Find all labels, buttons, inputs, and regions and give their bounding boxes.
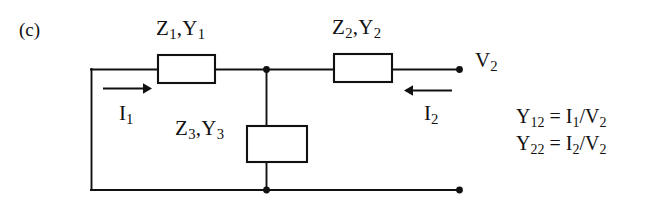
series-1-impedance-subscript: 1 — [169, 26, 177, 42]
equation-y22-lhs-symbol: Y — [516, 132, 530, 154]
equation-y22-numerator-subscript: 2 — [572, 142, 579, 157]
series-1-admittance-symbol: Y — [182, 16, 197, 40]
current-arrow-i2 — [404, 85, 452, 96]
series-impedance-block-1 — [158, 55, 215, 83]
equation-y22-denominator-symbol: V — [585, 132, 599, 154]
series-block-1-label: Z1,Y1 — [156, 18, 205, 39]
shunt-block-3-label: Z3,Y3 — [175, 118, 224, 139]
equation-block: Y12 = I1/V2 Y22 = I2/V2 — [516, 104, 606, 158]
shunt-3-impedance-subscript: 3 — [188, 126, 196, 142]
voltage-v2-symbol: V — [475, 48, 490, 72]
terminal-dot-v2-bottom — [456, 187, 463, 194]
current-i2-symbol: I — [424, 101, 431, 125]
series-1-admittance-subscript: 1 — [198, 26, 206, 42]
terminal-dot-v2-top — [456, 66, 463, 73]
equation-y22: Y22 = I2/V2 — [516, 131, 606, 158]
current-i1-subscript: 1 — [126, 111, 133, 127]
equation-y12-denominator-subscript: 2 — [599, 115, 606, 130]
equation-y12-equals: = — [549, 105, 560, 127]
shunt-3-admittance-subscript: 3 — [217, 126, 225, 142]
circuit-schematic-canvas — [0, 0, 648, 202]
equation-y22-equals: = — [549, 132, 560, 154]
equation-y12-lhs-subscript: 12 — [530, 115, 544, 130]
equation-y12-denominator-symbol: V — [585, 105, 599, 127]
junction-dot-bottom-node — [263, 187, 270, 194]
voltage-v2-subscript: 2 — [490, 58, 497, 74]
series-2-impedance-subscript: 2 — [345, 25, 353, 41]
shunt-3-admittance-symbol: Y — [201, 116, 216, 140]
current-arrow-group — [103, 83, 452, 96]
shunt-3-impedance-symbol: Z — [175, 116, 188, 140]
equation-y12: Y12 = I1/V2 — [516, 104, 606, 131]
shunt-impedance-block-3 — [247, 126, 307, 162]
current-i2-subscript: 2 — [431, 111, 438, 127]
equation-y22-lhs-subscript: 22 — [530, 142, 544, 157]
series-impedance-block-2 — [334, 54, 392, 82]
current-i1-symbol: I — [119, 101, 126, 125]
current-arrow-i1 — [103, 83, 152, 94]
series-2-impedance-symbol: Z — [332, 15, 345, 39]
current-i2-label: I2 — [424, 103, 438, 124]
circuit-diagram-figure: (c) Z1,Y1 Z2,Y2 Z3,Y3 I1 I2 V2 Y12 = I1/… — [0, 0, 648, 202]
current-i1-label: I1 — [119, 103, 133, 124]
series-1-impedance-symbol: Z — [156, 16, 169, 40]
equation-y22-denominator-subscript: 2 — [599, 142, 606, 157]
voltage-v2-label: V2 — [475, 50, 498, 71]
series-2-admittance-symbol: Y — [358, 15, 373, 39]
junction-dot-top-node — [263, 66, 270, 73]
series-block-2-label: Z2,Y2 — [332, 17, 381, 38]
series-2-admittance-subscript: 2 — [374, 25, 382, 41]
panel-label: (c) — [19, 20, 40, 39]
equation-y12-numerator-subscript: 1 — [572, 115, 579, 130]
equation-y12-lhs-symbol: Y — [516, 105, 530, 127]
